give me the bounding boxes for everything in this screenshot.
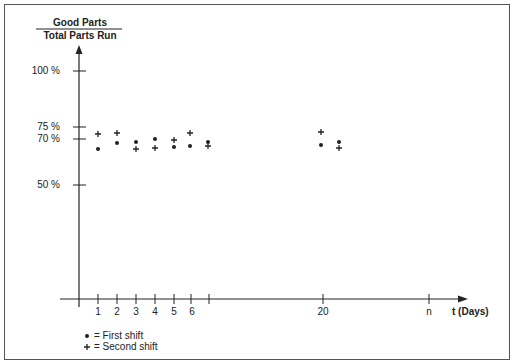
legend-first-shift: = First shift bbox=[94, 330, 143, 341]
x-tick-6: 6 bbox=[182, 306, 202, 317]
legend-dot-icon bbox=[85, 334, 89, 338]
x-axis-title: t (Days) bbox=[452, 306, 489, 317]
second-shift-points bbox=[95, 129, 342, 152]
x-tick-2: 2 bbox=[107, 306, 127, 317]
y-tick-75: 75 % bbox=[20, 121, 60, 132]
legend-plus-icon bbox=[84, 344, 90, 350]
y-tick-70: 70 % bbox=[20, 133, 60, 144]
x-tick-5: 5 bbox=[164, 306, 184, 317]
x-tick-4: 4 bbox=[145, 306, 165, 317]
x-tick-1: 1 bbox=[88, 306, 108, 317]
x-tick-n: n bbox=[419, 306, 439, 317]
y-tick-100: 100 % bbox=[20, 65, 60, 76]
x-tick-20: 20 bbox=[313, 306, 333, 317]
x-tick-3: 3 bbox=[126, 306, 146, 317]
legend-second-shift: = Second shift bbox=[94, 341, 158, 352]
y-tick-50: 50 % bbox=[20, 179, 60, 190]
first-shift-points bbox=[96, 137, 341, 151]
